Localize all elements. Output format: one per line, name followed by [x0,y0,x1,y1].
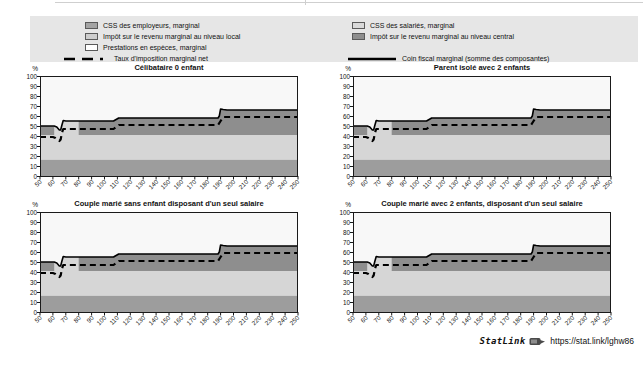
y-axis-label: 70 [14,103,37,110]
x-axis-label: 130 [447,314,459,326]
y-axis-label: 0 [327,173,350,180]
x-axis-label: 60 [46,314,56,324]
y-axis-label: 60 [14,249,37,256]
x-axis-label: 70 [59,314,69,324]
legend-label: Prestations en espèces, marginal [103,44,207,52]
legend-left-column: CSS des employeurs, marginalImpôt sur le… [85,20,240,64]
y-axis-label: 90 [327,83,350,90]
y-axis-label: 0 [14,309,37,316]
y-axis-label: 100 [14,73,37,80]
legend-line-sample-coin-fiscal-marginal [347,56,397,62]
panel-title: Couple marié sans enfant disposant d'un … [40,199,298,208]
y-axis-label: 80 [14,229,37,236]
x-axis-label: 190 [211,314,223,326]
y-axis-label: 10 [14,299,37,306]
x-axis-label: 220 [250,178,262,190]
x-axis-label: 130 [134,178,146,190]
x-axis-label: 60 [359,314,369,324]
x-axis-label: 130 [134,314,146,326]
y-axis-label: 70 [327,103,350,110]
x-axis-label: 160 [485,314,497,326]
y-axis-label: 20 [14,153,37,160]
x-axis-label: 110 [108,178,120,190]
y-axis-label: 100 [327,73,350,80]
x-axis-label: 90 [398,314,408,324]
x-axis-label: 90 [85,178,95,188]
legend-label: Impôt sur le revenu marginal au niveau l… [103,33,240,41]
legend-line-sample-taux-marginal-net [63,56,109,62]
legend-swatch-impot-central [352,33,365,40]
x-axis-label: 80 [385,178,395,188]
x-axis-label: 180 [511,314,523,326]
y-axis-label: 60 [327,249,350,256]
x-axis-label: 240 [276,178,288,190]
y-axis-label: 50 [327,259,350,266]
x-axis-label: 70 [372,178,382,188]
css-salaries-band [40,271,298,296]
x-axis-label: 80 [72,314,82,324]
x-axis-label: 100 [408,314,420,326]
x-axis-label: 70 [59,178,69,188]
x-axis-label: 200 [537,178,549,190]
y-axis-label: 80 [327,93,350,100]
x-axis-labels: 5060708090100110120130140150160170180190… [349,314,612,334]
y-axis-label: 50 [14,123,37,130]
y-axis-label: 100 [14,209,37,216]
y-axis-label: 50 [14,259,37,266]
chart-panel-couple-sans-enfant: Couple marié sans enfant disposant d'un … [14,198,306,334]
x-axis-label: 210 [550,314,562,326]
y-axis-label: 30 [327,143,350,150]
x-axis-label: 60 [359,178,369,188]
y-axis-label: 90 [14,83,37,90]
x-axis-label: 150 [160,314,172,326]
figure-root: { "page": { "top_rule": true }, "legend"… [0,0,643,365]
x-axis-label: 170 [498,314,510,326]
x-axis-label: 160 [172,178,184,190]
y-axis-label: 0 [14,173,37,180]
x-axis-label: 210 [550,178,562,190]
css-salaries-band [40,135,298,160]
plot-svg [36,76,300,182]
y-axis-label: 100 [327,209,350,216]
x-axis-label: 230 [263,314,275,326]
y-axis-label: 40 [327,133,350,140]
x-axis-label: 160 [172,314,184,326]
y-axis-unit-label: % [20,65,38,72]
x-axis-label: 210 [237,178,249,190]
x-axis-label: 150 [473,314,485,326]
y-axis-unit-label: % [20,201,38,208]
chart-panel-parent-isole: Parent isolé avec 2 enfants%100908070605… [327,62,619,198]
x-axis-label: 100 [95,178,107,190]
x-axis-label: 240 [589,178,601,190]
panel-title: Parent isolé avec 2 enfants [353,63,611,72]
plot-svg [349,212,613,318]
x-axis-label: 130 [447,178,459,190]
panel-title: Couple marié avec 2 enfants, disposant d… [353,199,611,208]
y-axis-unit-label: % [333,201,351,208]
x-axis-label: 70 [372,314,382,324]
y-axis-label: 10 [14,163,37,170]
x-axis-label: 100 [408,178,420,190]
chart-panel-celibataire: Célibataire 0 enfant%1009080706050403020… [14,62,306,198]
x-axis-label: 230 [576,178,588,190]
css-employeurs-band [40,296,298,313]
y-axis-label: 40 [14,133,37,140]
legend-swatch-impot-local [85,33,98,40]
y-axis-label: 80 [14,93,37,100]
x-axis-labels: 5060708090100110120130140150160170180190… [36,178,299,198]
legend-label: Impôt sur le revenu marginal au niveau c… [370,33,514,41]
x-axis-labels: 5060708090100110120130140150160170180190… [36,314,299,334]
statlink: StatLink https://stat.link/lghw86 [480,336,634,346]
x-axis-label: 200 [224,178,236,190]
legend-swatch-css-employeurs [85,22,98,29]
x-axis-label: 90 [85,314,95,324]
y-axis-label: 20 [327,153,350,160]
x-axis-label: 230 [263,178,275,190]
statlink-url[interactable]: https://stat.link/lghw86 [550,336,634,346]
plot-svg [349,76,613,182]
x-axis-label: 170 [185,314,197,326]
statlink-label: StatLink [480,336,526,346]
css-salaries-band [353,135,611,160]
x-axis-label: 110 [108,314,120,326]
css-employeurs-band [40,160,298,177]
